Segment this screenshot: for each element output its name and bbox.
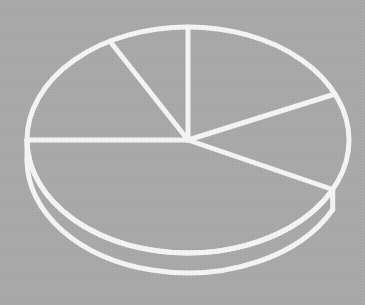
slice-divider-5 bbox=[188, 94, 335, 140]
slice-divider-2 bbox=[110, 41, 188, 140]
pie-chart-canvas bbox=[0, 0, 365, 305]
pie-chart-figure: Outline drawing of a three-dimensional p… bbox=[0, 0, 365, 305]
slice-divider-4 bbox=[188, 140, 333, 190]
